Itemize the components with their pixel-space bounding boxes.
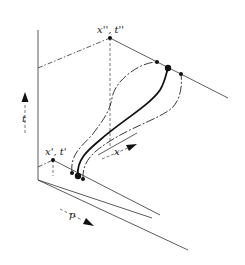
time-arrow-icon (22, 92, 29, 102)
base-line-inner (38, 180, 152, 218)
end-point-left (155, 60, 159, 64)
varied-path-right (83, 74, 181, 179)
start-point-classical (75, 173, 81, 179)
end-point-label: x'', t'' (97, 25, 124, 35)
lower-back-line (38, 160, 53, 167)
lower-point (51, 158, 55, 162)
start-point-left (70, 171, 74, 175)
momentum-axis-label: p (69, 210, 75, 220)
position-axis-label: x (114, 147, 120, 157)
end-point-classical (165, 65, 171, 71)
classical-path (78, 68, 168, 176)
time-axis-label: t (22, 114, 26, 124)
phase-space-diagram (0, 0, 245, 265)
start-point-label: x', t' (45, 147, 67, 157)
start-point-right (81, 177, 85, 181)
x-arrow-icon (126, 144, 137, 151)
top-back-line (38, 38, 110, 68)
end-point-right (179, 72, 183, 76)
p-arrow-icon (83, 218, 94, 226)
top-point (108, 36, 112, 40)
lower-right-line (53, 160, 160, 215)
